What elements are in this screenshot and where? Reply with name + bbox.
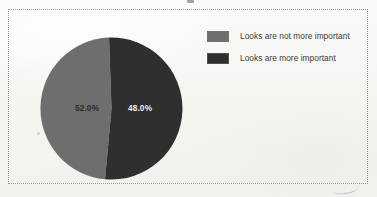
pie-slice-label-52: 52.0%	[75, 104, 100, 113]
scan-smudge-artifact	[332, 182, 359, 195]
legend-item-looks-are-not-more-important[interactable]: Looks are not more important	[207, 25, 357, 47]
legend-label-looks-are-not-more-important: Looks are not more important	[240, 31, 350, 41]
legend-item-looks-are-more-important[interactable]: Looks are more important	[207, 47, 357, 69]
pie-slice-label-48: 48.0%	[128, 104, 153, 113]
pie-svg: 52.0% 48.0%	[39, 36, 184, 181]
pie-chart: 52.0% 48.0%	[39, 36, 184, 181]
legend-swatch-dark-gray	[207, 53, 229, 64]
chart-legend: Looks are not more important Looks are m…	[207, 25, 357, 69]
legend-swatch-light-gray	[207, 31, 229, 42]
cropped-title-glyph-artifact	[187, 0, 194, 3]
chart-canvas: 52.0% 48.0% Looks are not more important…	[0, 0, 377, 197]
legend-label-looks-are-more-important: Looks are more important	[240, 53, 336, 63]
